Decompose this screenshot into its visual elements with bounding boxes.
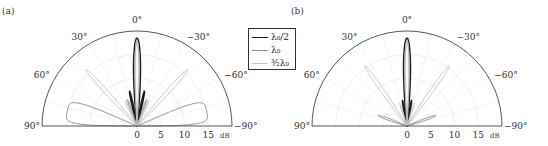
radial-unit-label: dB — [220, 132, 230, 140]
legend-entry-three-halves-lambda: ³⁄₂λ₀ — [252, 57, 289, 69]
radial-tick-label: 5 — [158, 130, 164, 140]
grid-spoke — [325, 79, 407, 127]
angle-tick-label: 60° — [34, 70, 50, 80]
polar-figure: 90°60°30°0°−30°−60°−90°051015dB(a) 90°60… — [0, 0, 548, 146]
angle-tick-label: 30° — [72, 32, 88, 42]
radial-unit-label: dB — [490, 132, 500, 140]
radial-tick-label: 5 — [428, 130, 434, 140]
grid-spoke — [137, 101, 229, 126]
radial-tick-label: 0 — [134, 130, 140, 140]
legend-swatch — [252, 37, 268, 38]
grid-spoke — [90, 44, 138, 126]
angle-tick-label: 0° — [132, 15, 142, 25]
polar-panel-a: 90°60°30°0°−30°−60°−90°051015dB(a) — [2, 6, 258, 140]
grid-spoke — [45, 101, 137, 126]
angle-tick-label: 0° — [402, 15, 412, 25]
radial-tick-label: 0 — [404, 130, 410, 140]
angle-tick-label: −60° — [494, 70, 518, 80]
legend-swatch — [252, 63, 268, 64]
angle-tick-label: −90° — [504, 121, 528, 131]
angle-tick-label: −60° — [224, 70, 248, 80]
series-lobe — [67, 103, 138, 126]
legend-label: λ₀/2 — [271, 32, 289, 42]
series-lobe — [137, 103, 208, 126]
angle-tick-label: −30° — [457, 32, 481, 42]
radial-tick-label: 10 — [449, 130, 461, 140]
angle-tick-label: 90° — [294, 121, 310, 131]
grid-spoke — [137, 44, 185, 126]
angle-tick-label: 60° — [304, 70, 320, 80]
panel-label: (b) — [291, 6, 304, 16]
radial-tick-label: 15 — [473, 130, 485, 140]
polar-panel-b: 90°60°30°0°−30°−60°−90°051015dB(b) — [291, 6, 528, 140]
angle-tick-label: −30° — [187, 32, 211, 42]
angle-tick-label: −90° — [234, 121, 258, 131]
legend-label: λ₀ — [271, 45, 280, 55]
angle-tick-label: 90° — [24, 121, 40, 131]
legend-entry-lambda: λ₀ — [252, 44, 280, 56]
legend-entry-half-lambda: λ₀/2 — [252, 31, 289, 43]
legend-swatch — [252, 50, 268, 51]
grid-spoke — [340, 59, 407, 126]
radial-tick-label: 15 — [203, 130, 215, 140]
legend: λ₀/2 λ₀ ³⁄₂λ₀ — [248, 28, 296, 70]
legend-label: ³⁄₂λ₀ — [271, 58, 289, 68]
angle-tick-label: 30° — [342, 32, 358, 42]
grid-spoke — [407, 59, 474, 126]
panel-label: (a) — [2, 6, 14, 16]
radial-tick-label: 10 — [179, 130, 191, 140]
grid-spoke — [407, 79, 489, 127]
